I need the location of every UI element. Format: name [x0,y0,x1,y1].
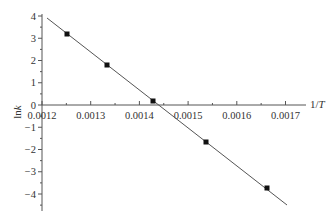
x-axis-label-text: 1/T [310,98,326,110]
x-tick-label: 0.0013 [76,110,105,121]
y-tick-label: 2 [31,55,36,66]
x-tick-label: 0.0015 [174,110,203,121]
data-point-marker [105,63,110,68]
data-point-marker [265,186,270,191]
x-axis-label: 1/T [310,98,326,110]
y-tick-label: −3 [25,166,36,177]
y-tick-label: 0 [31,100,36,111]
y-tick-label: 3 [31,33,36,44]
y-tick-label: −4 [25,189,37,200]
data-point-marker [204,140,209,145]
data-point-marker [151,99,156,104]
y-tick-label: −1 [25,122,36,133]
y-tick-label: 1 [31,77,36,88]
y-axis-label: lnk [11,104,23,119]
x-tick-label: 0.0014 [125,110,155,121]
y-tick-label: 4 [31,11,37,22]
chart-canvas: 43210−1−2−3−4 0.00120.00130.00140.00150.… [0,0,335,219]
x-tick-label: 0.0012 [28,110,57,121]
x-tick-label: 0.0016 [222,110,251,121]
data-point-marker [65,32,70,37]
x-tick-label: 0.0017 [271,110,300,121]
y-tick-label: −2 [25,144,36,155]
